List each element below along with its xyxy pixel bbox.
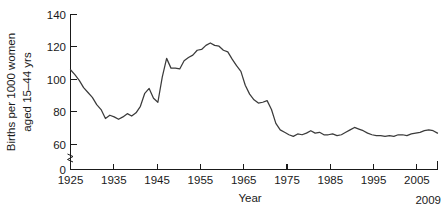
y-axis-break-icon — [68, 154, 74, 162]
y-axis-title-line2: aged 15–44 yrs — [21, 52, 33, 132]
x-tick-label-1995: 1995 — [361, 174, 387, 186]
y-axis-title-line1: Births per 1000 women — [5, 33, 17, 151]
y-tick-label-140: 140 — [47, 9, 66, 21]
x-tick-label-1975: 1975 — [274, 174, 300, 186]
x-axis-title: Year — [238, 192, 261, 204]
y-axis-ticks — [71, 15, 78, 170]
x-tick-label-1985: 1985 — [318, 174, 344, 186]
x-tick-label-1965: 1965 — [231, 174, 257, 186]
x-tick-label-1935: 1935 — [101, 174, 127, 186]
x-tick-label-1925: 1925 — [58, 174, 84, 186]
x-axis-ticks — [71, 161, 438, 170]
x-tick-label-1945: 1945 — [144, 174, 170, 186]
x-axis-end-label-2009: 2009 — [415, 194, 441, 206]
x-tick-label-1955: 1955 — [188, 174, 214, 186]
y-tick-label-80: 80 — [53, 106, 66, 118]
chart-canvas: 140 120 100 80 60 0 1925 1935 1945 1955 … — [0, 0, 447, 217]
fertility-rate-chart: 140 120 100 80 60 0 1925 1935 1945 1955 … — [0, 0, 447, 217]
x-tick-label-2005: 2005 — [404, 174, 430, 186]
y-tick-label-60: 60 — [53, 139, 66, 151]
y-tick-label-100: 100 — [47, 74, 66, 86]
y-tick-label-120: 120 — [47, 41, 66, 53]
fertility-rate-line — [71, 43, 438, 136]
